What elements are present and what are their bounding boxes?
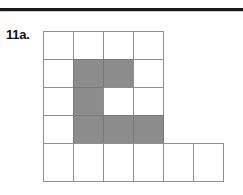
grid-cell-empty (103, 143, 134, 182)
grid-cell-empty (43, 59, 74, 88)
grid-cell-empty (43, 87, 74, 116)
grid-cell-empty (133, 59, 164, 88)
grid-row (43, 87, 224, 116)
grid-cell-empty (193, 143, 224, 182)
grid-cell-empty (73, 143, 104, 182)
grid-row (43, 31, 224, 60)
grid-row (43, 143, 224, 182)
grid-row (43, 59, 224, 88)
figure-label: 11a. (6, 28, 30, 42)
figure-root: 11a. (0, 0, 243, 195)
square-grid (43, 31, 224, 182)
grid-cell-empty (103, 31, 134, 60)
grid-row (43, 115, 224, 144)
top-horizontal-rule-shadow (0, 11, 243, 12)
grid-cell-shaded (103, 59, 134, 88)
grid-cell-empty (43, 31, 74, 60)
grid-cell-empty (133, 87, 164, 116)
grid-cell-empty (133, 31, 164, 60)
grid-cell-empty (43, 143, 74, 182)
grid-cell-empty (43, 115, 74, 144)
grid-cell-shaded (103, 115, 134, 144)
grid-cell-shaded (73, 115, 104, 144)
grid-cell-empty (133, 143, 164, 182)
grid-cell-shaded (133, 115, 164, 144)
grid-cell-empty (73, 31, 104, 60)
grid-cell-shaded (73, 59, 104, 88)
grid-cell-empty (163, 143, 194, 182)
grid-cell-shaded (73, 87, 104, 116)
grid-cell-empty (103, 87, 134, 116)
